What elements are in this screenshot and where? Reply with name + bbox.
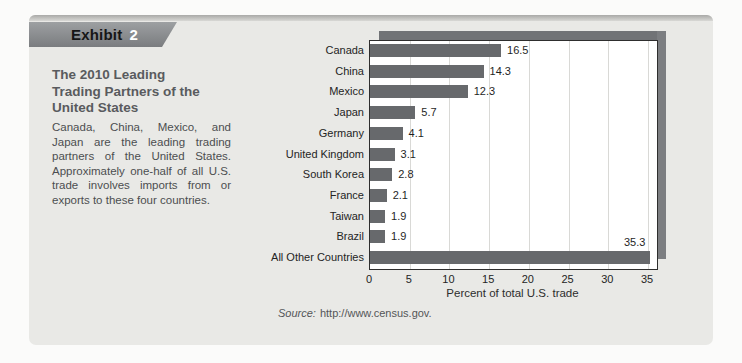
bar bbox=[370, 106, 415, 119]
bar bbox=[370, 65, 484, 78]
bar bbox=[370, 251, 650, 264]
value-label: 16.5 bbox=[507, 44, 528, 57]
category-label: Taiwan bbox=[232, 210, 364, 223]
bar bbox=[370, 127, 403, 140]
x-tick-label: 25 bbox=[554, 273, 582, 285]
category-label: South Korea bbox=[232, 168, 364, 181]
category-label: Germany bbox=[232, 127, 364, 140]
value-label: 1.9 bbox=[391, 210, 406, 223]
plot-shadow-top bbox=[379, 31, 666, 40]
x-tick-label: 30 bbox=[593, 273, 621, 285]
x-tick-label: 20 bbox=[514, 273, 542, 285]
value-label: 1.9 bbox=[391, 230, 406, 243]
bar bbox=[370, 168, 392, 181]
category-label: United Kingdom bbox=[232, 148, 364, 161]
category-label: France bbox=[232, 189, 364, 202]
bar bbox=[370, 44, 501, 57]
bar bbox=[370, 230, 385, 243]
category-label: Brazil bbox=[232, 230, 364, 243]
gridline bbox=[569, 41, 570, 269]
gridline bbox=[648, 41, 649, 269]
x-tick-label: 5 bbox=[395, 273, 423, 285]
source-url: http://www.census.gov. bbox=[320, 307, 432, 319]
bar bbox=[370, 148, 395, 161]
source-note: Source:http://www.census.gov. bbox=[278, 307, 432, 319]
category-label: All Other Countries bbox=[232, 251, 364, 264]
x-tick-label: 10 bbox=[434, 273, 462, 285]
gridline bbox=[529, 41, 530, 269]
x-axis-label: Percent of total U.S. trade bbox=[369, 287, 656, 299]
bar bbox=[370, 189, 387, 202]
value-label: 14.3 bbox=[490, 65, 511, 78]
x-tick-label: 15 bbox=[474, 273, 502, 285]
plot-shadow-right bbox=[657, 31, 666, 259]
exhibit-card: Exhibit2 The 2010 Leading Trading Partne… bbox=[29, 15, 713, 345]
bar bbox=[370, 210, 385, 223]
category-label: China bbox=[232, 65, 364, 78]
x-tick-label: 0 bbox=[355, 273, 383, 285]
value-label: 3.1 bbox=[401, 148, 416, 161]
value-label: 12.3 bbox=[474, 85, 495, 98]
category-label: Japan bbox=[232, 106, 364, 119]
value-label: 4.1 bbox=[409, 127, 424, 140]
value-label: 35.3 bbox=[599, 236, 645, 249]
category-label: Canada bbox=[232, 44, 364, 57]
value-label: 5.7 bbox=[421, 106, 436, 119]
source-prefix: Source: bbox=[278, 307, 316, 319]
bar bbox=[370, 85, 468, 98]
chart: Percent of total U.S. trade Canada16.5Ch… bbox=[29, 15, 713, 345]
value-label: 2.8 bbox=[398, 168, 413, 181]
x-tick-label: 35 bbox=[633, 273, 661, 285]
value-label: 2.1 bbox=[393, 189, 408, 202]
gridline bbox=[608, 41, 609, 269]
category-label: Mexico bbox=[232, 85, 364, 98]
